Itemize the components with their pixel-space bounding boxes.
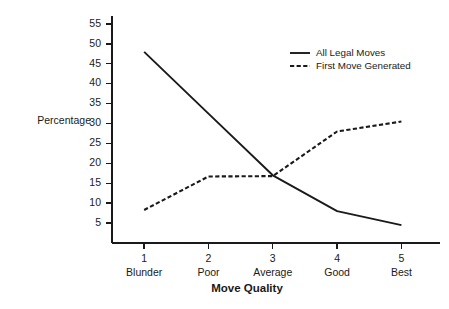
x-tick-category: Average [253, 266, 292, 278]
y-tick-label: 40 [89, 76, 101, 88]
x-tick-category: Blunder [126, 266, 163, 278]
x-tick-number: 3 [270, 252, 276, 264]
x-axis-title: Move Quality [211, 282, 283, 294]
y-tick-label: 45 [89, 57, 101, 69]
y-tick-label: 35 [89, 96, 101, 108]
y-axis-title: Percentage [37, 114, 91, 126]
y-tick-label: 30 [89, 116, 101, 128]
x-tick-category: Best [391, 266, 412, 278]
y-tick-label: 25 [89, 136, 101, 148]
y-tick-label: 50 [89, 37, 101, 49]
y-tick-label: 20 [89, 156, 101, 168]
x-tick-number: 1 [141, 252, 147, 264]
chart-container: 555045403530252015105 12345 BlunderPoorA… [0, 0, 449, 309]
y-tick-label: 5 [95, 216, 101, 228]
legend-label: First Move Generated [316, 60, 411, 71]
x-tick-number: 4 [334, 252, 340, 264]
x-tick-category: Poor [197, 266, 220, 278]
x-tick-number: 2 [206, 252, 212, 264]
y-tick-label: 55 [89, 17, 101, 29]
x-tick-category: Good [324, 266, 350, 278]
y-tick-label: 10 [89, 196, 101, 208]
y-tick-label: 15 [89, 176, 101, 188]
y-axis-tick-labels: 555045403530252015105 [89, 17, 101, 228]
legend-label: All Legal Moves [316, 47, 385, 58]
x-tick-number: 5 [398, 252, 404, 264]
line-chart: 555045403530252015105 12345 BlunderPoorA… [0, 0, 449, 309]
